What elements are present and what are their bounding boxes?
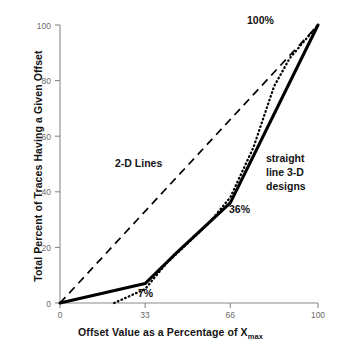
y-axis-title: Total Percent of Traces Having a Given O… <box>32 46 44 286</box>
chart-container: 0 20 40 60 80 100 0 33 66 100 Total Perc… <box>0 0 341 347</box>
x-tick-label-0: 0 <box>58 310 63 320</box>
annotation-36-percent: 36% <box>229 203 250 217</box>
y-tick-label-100: 100 <box>37 21 51 31</box>
annotation-straight-line-3: designs <box>266 180 338 194</box>
x-axis-title-subscript: max <box>248 332 263 341</box>
annotation-straight-line-1: straight <box>266 152 338 166</box>
annotation-7-percent: 7% <box>138 287 153 301</box>
x-tick-label-66: 66 <box>226 310 236 320</box>
annotation-straight-line-3d-designs: straight line 3-D designs <box>266 152 338 194</box>
x-axis-title: Offset Value as a Percentage of Xmax <box>0 326 341 338</box>
y-tick-label-0: 0 <box>46 299 51 309</box>
annotation-2d-lines: 2-D Lines <box>115 157 162 171</box>
annotation-100-percent: 100% <box>247 14 274 28</box>
x-axis-ticks: 0 33 66 100 <box>58 303 326 320</box>
annotation-straight-line-2: line 3-D <box>266 166 338 180</box>
x-tick-label-33: 33 <box>140 310 150 320</box>
x-tick-label-100: 100 <box>311 310 325 320</box>
x-axis-title-text: Offset Value as a Percentage of X <box>78 326 248 338</box>
